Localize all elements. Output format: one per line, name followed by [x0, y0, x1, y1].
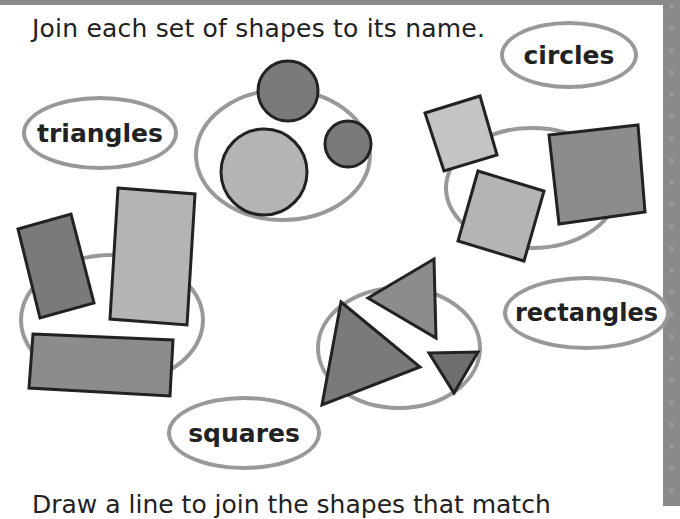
label-rectangles-text: rectangles [515, 299, 658, 327]
rectangle-shape [29, 334, 173, 396]
triangle-shape [429, 352, 478, 393]
square-shape [425, 96, 497, 171]
rectangle-shape [110, 188, 195, 325]
square-shape [549, 125, 645, 224]
rectangle-shape [18, 214, 94, 318]
circles-group[interactable] [196, 61, 371, 220]
circle-shape [325, 121, 371, 167]
triangles-group[interactable] [318, 259, 480, 408]
label-circles[interactable]: circles [500, 21, 638, 89]
label-rectangles[interactable]: rectangles [503, 276, 670, 350]
label-squares-text: squares [188, 419, 300, 448]
circle-shape [221, 129, 307, 215]
label-circles-text: circles [524, 41, 615, 70]
bottom-instruction-text: Draw a line to join the shapes that matc… [32, 490, 551, 519]
label-triangles-text: triangles [37, 119, 163, 148]
label-squares[interactable]: squares [167, 396, 321, 470]
rectangles-group[interactable] [18, 188, 203, 396]
label-triangles[interactable]: triangles [22, 96, 178, 170]
triangle-shape [368, 259, 436, 338]
circle-shape [258, 61, 318, 121]
squares-group[interactable] [425, 96, 645, 261]
